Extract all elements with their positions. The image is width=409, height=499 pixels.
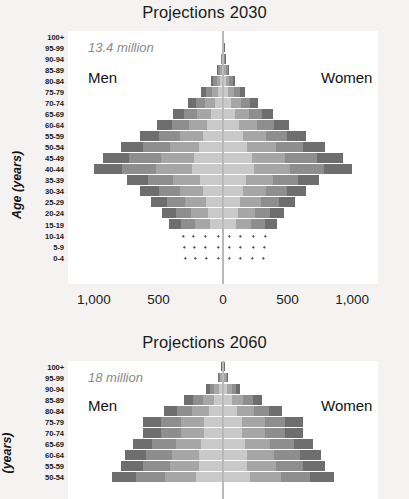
bar-segment-outer [143,417,161,427]
bar-men-55-59 [140,131,223,141]
bar-women-30-34 [223,186,306,196]
age-tick-60-64: 60-64 [20,450,64,461]
age-tick-70-74: 70-74 [20,98,64,109]
bar-segment-outer [143,428,161,438]
total-population-note-2030: 13.4 million [88,40,154,55]
x-tick-0: 0 [219,292,227,307]
bar-women-80-84 [223,76,235,86]
men-label-2060: Men [88,397,117,414]
bar-men-90-94 [206,384,223,394]
bar-segment-core [223,450,247,460]
bar-men-65-69 [133,439,223,449]
bar-men-45-49 [103,153,223,163]
age-tick-40-44: 40-44 [20,165,64,176]
bar-segment-inner [234,252,246,262]
bar-segment-mid [261,197,280,207]
bar-segment-mid [254,406,269,416]
bar-segment-mid [148,175,173,185]
bar-segment-outer [270,208,283,218]
men-label-2030: Men [88,69,117,86]
bar-segment-core [200,175,223,185]
bar-women-95-99 [223,373,228,383]
bar-segment-inner [161,153,195,163]
bar-segment-mid [129,153,160,163]
bar-segment-mid [161,428,182,438]
bar-segment-mid [241,98,250,108]
bar-segment-mid [247,241,259,251]
bar-segment-inner [191,208,208,218]
bar-segment-mid [273,175,298,185]
bar-women-85-89 [223,65,229,75]
bar-men-80-84 [211,76,223,86]
bar-segment-mid [265,417,286,427]
bar-segment-inner [189,120,207,130]
bar-women-55-59 [223,461,325,471]
bar-segment-outer [94,164,122,174]
bar-segment-core [223,472,250,482]
bar-segment-outer [265,219,277,229]
bar-segment-inner [234,241,247,251]
bar-segment-outer [177,230,187,240]
age-tick-labels-2060: 100+95-9990-9485-8980-8475-7970-7465-696… [20,362,64,484]
bar-segment-inner [252,153,286,163]
bar-women-40-44 [223,164,352,174]
x-tick-500: 500 [276,292,299,307]
bar-segment-core [223,406,237,416]
bar-segment-inner [247,450,274,460]
bar-segment-mid [243,395,253,405]
age-tick-45-49: 45-49 [20,154,64,165]
bar-segment-inner [197,109,211,119]
age-tick-65-69: 65-69 [20,109,64,120]
bar-segment-outer [140,186,158,196]
bar-segment-core [196,472,223,482]
bar-segment-outer [287,131,305,141]
bar-segment-outer [324,164,352,174]
bar-segment-core [199,461,223,471]
plot-area-2060: 18 million Men Women [68,361,378,499]
bar-segment-outer [133,439,153,449]
bar-segment-core [207,120,223,130]
women-label-2060: Women [321,397,372,414]
bar-women-5-9 [223,241,268,251]
bar-women-70-74 [223,98,258,108]
bar-segment-mid [266,131,287,141]
bar-segment-inner [180,186,203,196]
bar-segment-inner [181,417,203,427]
panel-projections-2060: Projections 2060 (years) 100+95-9990-948… [0,330,409,499]
bar-men-75-79 [143,417,223,427]
bar-women-35-39 [223,175,319,185]
bar-segment-mid [159,186,180,196]
bar-segment-inner [203,395,214,405]
bar-segment-mid [193,395,203,405]
bar-segment-outer [285,428,303,438]
bar-segment-mid [266,186,287,196]
bar-segment-inner [239,120,257,130]
bar-segment-outer [127,175,148,185]
age-tick-85-89: 85-89 [20,395,64,406]
bar-segment-core [223,109,235,119]
bar-segment-inner [243,186,266,196]
bar-segment-outer [236,384,240,394]
bar-segment-outer [140,131,158,141]
x-tick-1000: 1,000 [77,292,111,307]
bar-segment-inner [250,472,281,482]
bar-segment-core [223,142,247,152]
bar-segment-inner [246,175,273,185]
bar-segment-outer [240,87,245,97]
bar-segment-inner [195,219,210,229]
bar-segment-mid [276,461,303,471]
age-tick-0-4: 0-4 [20,253,64,264]
age-tick-30-34: 30-34 [20,187,64,198]
bar-segment-outer [157,120,171,130]
bar-segment-core [203,186,223,196]
bar-segment-inner [242,417,264,427]
bar-segment-core [223,230,234,240]
bar-women-75-79 [223,417,303,427]
age-tick-25-29: 25-29 [20,198,64,209]
bar-segment-outer [269,406,282,416]
bar-men-60-64 [157,120,223,130]
center-axis-line-2060 [222,361,223,499]
bar-segment-core [223,131,243,141]
age-tick-65-69: 65-69 [20,439,64,450]
bar-segment-outer [125,450,147,460]
